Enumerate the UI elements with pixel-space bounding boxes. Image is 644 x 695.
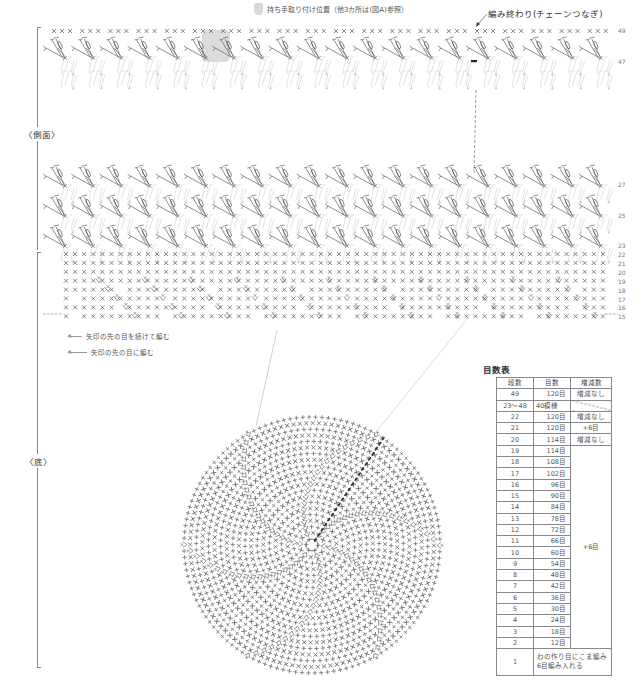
row-number-cell: 6 — [497, 592, 534, 603]
stitch-count-table: 段数 目数 増減数 49120目増減なし23～4840模様22120目増減なし2… — [496, 377, 612, 676]
stitch-count-cell: 84目 — [534, 502, 571, 513]
row-number-16: 16 — [618, 304, 626, 311]
table-row: 21120目+6目 — [497, 423, 612, 434]
stitch-count-cell: 40模様 — [534, 400, 571, 411]
row-number-21: 21 — [618, 260, 626, 267]
row-number-cell: 5 — [497, 603, 534, 614]
row-number-18: 18 — [618, 287, 626, 294]
table-row: 20114目増減なし — [497, 434, 612, 445]
row-number-20: 20 — [618, 269, 626, 276]
row-number-cell: 4 — [497, 615, 534, 626]
stitch-count-cell: 24目 — [534, 615, 571, 626]
row-number-22: 22 — [618, 251, 626, 258]
row-number-25: 25 — [618, 212, 626, 219]
legend-continue-text: 矢印の先の目を続けて編む — [86, 331, 170, 341]
row-number-cell: 11 — [497, 536, 534, 547]
row-number-cell: 19 — [497, 445, 534, 456]
header-rows: 段数 — [497, 378, 534, 389]
legend-into: 矢印の先の目に編む — [68, 347, 154, 357]
row-number-cell: 3 — [497, 626, 534, 637]
header-change: 増減数 — [571, 378, 612, 389]
change-cell — [571, 400, 612, 411]
row-number-cell: 1 — [497, 649, 534, 676]
legend-into-text: 矢印の先の目に編む — [91, 347, 154, 357]
stitch-count-cell: 54目 — [534, 558, 571, 569]
row-number-27: 27 — [618, 181, 626, 188]
header-stitches: 目数 — [534, 378, 571, 389]
instruction-line: わの作り目にこま編み — [537, 653, 608, 662]
stitch-count-cell: 12目 — [534, 637, 571, 648]
row-number-17: 17 — [618, 296, 626, 303]
row-number-cell: 49 — [497, 389, 534, 400]
instruction-line: 6目編み入れる — [537, 662, 608, 671]
row-number-19: 19 — [618, 278, 626, 285]
row-number-47: 47 — [618, 58, 626, 65]
row-49 — [52, 29, 608, 33]
row-number-cell: 14 — [497, 502, 534, 513]
row-number-cell: 17 — [497, 468, 534, 479]
stitch-count-cell: 60目 — [534, 547, 571, 558]
stitch-table-title: 目数表 — [483, 363, 510, 375]
first-row-instruction: わの作り目にこま編み6目編み入れる — [534, 649, 612, 676]
stitch-count-cell: 30目 — [534, 603, 571, 614]
row-number-cell: 15 — [497, 490, 534, 501]
change-cell: 増減なし — [571, 434, 612, 445]
legend-continue: 矢印の先の目を続けて編む — [68, 331, 170, 341]
change-cell: +6目 — [571, 423, 612, 434]
row-number-23: 23 — [618, 242, 626, 249]
stitch-count-cell: 96目 — [534, 479, 571, 490]
row-number-cell: 16 — [497, 479, 534, 490]
row-number-cell: 7 — [497, 581, 534, 592]
arrow-left-icon — [68, 352, 87, 353]
stitch-count-cell: 48目 — [534, 570, 571, 581]
arrow-left-icon — [68, 336, 82, 337]
table-row: 19114目+6目 — [497, 445, 612, 456]
stitch-count-cell: 120目 — [534, 423, 571, 434]
stitch-count-cell: 120目 — [534, 389, 571, 400]
row-number-cell: 10 — [497, 547, 534, 558]
table-row-first: 1わの作り目にこま編み6目編み入れる — [497, 649, 612, 676]
table-row: 49120目増減なし — [497, 389, 612, 400]
row-number-cell: 9 — [497, 558, 534, 569]
row-number-cell: 13 — [497, 513, 534, 524]
stitch-count-cell: 102目 — [534, 468, 571, 479]
table-row: 22120目増減なし — [497, 411, 612, 422]
change-cell-merged: +6目 — [571, 445, 612, 648]
stitch-count-cell: 36目 — [534, 592, 571, 603]
row-number-cell: 12 — [497, 524, 534, 535]
row-number-cell: 2 — [497, 637, 534, 648]
stitch-count-cell: 78目 — [534, 513, 571, 524]
stitch-count-cell: 90目 — [534, 490, 571, 501]
stitch-count-cell: 114目 — [534, 445, 571, 456]
row-number-cell: 18 — [497, 457, 534, 468]
stitch-count-cell: 18目 — [534, 626, 571, 637]
stitch-count-cell: 114目 — [534, 434, 571, 445]
change-cell: 増減なし — [571, 389, 612, 400]
row-number-cell: 23～48 — [497, 400, 534, 411]
row-number-cell: 20 — [497, 434, 534, 445]
stitch-count-cell: 42目 — [534, 581, 571, 592]
row-number-cell: 22 — [497, 411, 534, 422]
stitch-count-cell: 66目 — [534, 536, 571, 547]
stitch-count-cell: 120目 — [534, 411, 571, 422]
change-cell: 増減なし — [571, 411, 612, 422]
row-number-15: 15 — [618, 313, 626, 320]
row-number-cell: 21 — [497, 423, 534, 434]
stitch-count-cell: 72目 — [534, 524, 571, 535]
row-number-cell: 8 — [497, 570, 534, 581]
row-number-49: 49 — [618, 27, 626, 34]
table-row: 23～4840模様 — [497, 400, 612, 411]
stitch-count-cell: 108目 — [534, 457, 571, 468]
